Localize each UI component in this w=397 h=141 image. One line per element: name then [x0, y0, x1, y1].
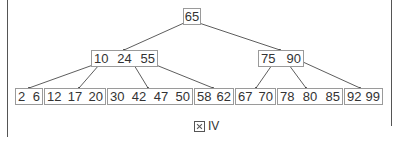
key: 20 [89, 89, 103, 104]
key: 65 [185, 9, 199, 24]
key: 55 [141, 51, 155, 66]
figure-kanji-icon: 図 [194, 121, 205, 132]
leaf-node-2: 12 17 20 [44, 88, 106, 105]
key: 58 [197, 89, 211, 104]
leaf-node-1: 2 6 [15, 88, 43, 105]
key: 2 [18, 89, 25, 104]
key: 80 [303, 89, 317, 104]
leaf-node-5: 67 70 [235, 88, 276, 105]
figure-caption: 図 IV [194, 119, 219, 133]
key: 78 [280, 89, 294, 104]
edge-root-to-right [199, 23, 280, 50]
key: 70 [259, 89, 273, 104]
edge-to-leaf-3 [134, 65, 148, 88]
key: 24 [117, 51, 131, 66]
edge-to-leaf-1 [29, 65, 93, 88]
edge-to-leaf-2 [79, 65, 99, 88]
key: 90 [287, 51, 301, 66]
edge-to-leaf-5 [256, 65, 272, 88]
key: 47 [154, 89, 168, 104]
edge-root-to-left [124, 23, 184, 50]
key: 99 [366, 89, 380, 104]
key: 62 [217, 89, 231, 104]
edge-to-leaf-7 [303, 62, 360, 88]
key: 17 [68, 89, 82, 104]
leaf-node-4: 58 62 [194, 88, 234, 105]
internal-node-left: 10 24 55 [91, 50, 158, 67]
key: 75 [261, 51, 275, 66]
internal-node-right: 75 90 [258, 50, 304, 67]
key: 12 [47, 89, 61, 104]
key: 42 [132, 89, 146, 104]
edge-to-leaf-6 [289, 65, 306, 88]
leaf-node-6: 78 80 85 [277, 88, 343, 105]
leaf-node-3: 30 42 47 50 [107, 88, 193, 105]
figure-label: IV [208, 119, 219, 133]
key: 6 [33, 89, 40, 104]
key: 50 [176, 89, 190, 104]
key: 92 [347, 89, 361, 104]
edge-to-leaf-4 [156, 65, 213, 88]
root-node: 65 [183, 8, 201, 25]
key: 30 [110, 89, 124, 104]
key: 67 [238, 89, 252, 104]
key: 85 [326, 89, 340, 104]
key: 10 [94, 51, 108, 66]
leaf-node-7: 92 99 [344, 88, 383, 105]
